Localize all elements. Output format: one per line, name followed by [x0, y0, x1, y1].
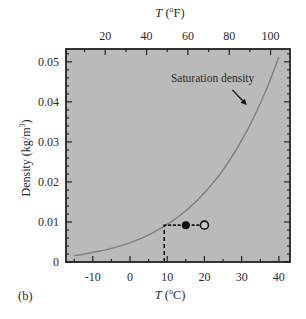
x2-tick-label: 40: [141, 29, 153, 43]
x-axis-tick-labels: -10010203040: [85, 270, 285, 284]
x2-axis-label: T (oF): [155, 5, 184, 20]
y-tick-label: 0.05: [38, 55, 59, 69]
x2-axis-tick-labels: 20406080100: [99, 29, 279, 43]
x2-tick-label: 20: [99, 29, 111, 43]
y-axis-label: Density (kg/m3): [18, 120, 33, 197]
filled-point: [182, 221, 190, 229]
y-tick-label: 0.03: [38, 135, 59, 149]
x-tick-label: 40: [273, 270, 285, 284]
x-tick-label: 10: [161, 270, 173, 284]
y-tick-label: 0.02: [38, 175, 59, 189]
x2-tick-label: 100: [262, 29, 280, 43]
x-tick-label: -10: [85, 270, 101, 284]
open-point: [200, 221, 208, 229]
x-tick-label: 30: [236, 270, 248, 284]
x2-tick-label: 60: [182, 29, 194, 43]
annotation-label: Saturation density: [171, 72, 255, 85]
panel-label: (b): [18, 289, 33, 303]
y-tick-label: 0: [53, 255, 59, 269]
x-axis-label: T (oC): [155, 287, 186, 302]
y-tick-label: 0.01: [38, 215, 59, 229]
x-tick-label: 20: [198, 270, 210, 284]
saturation-density-chart: Saturation density -10010203040 20406080…: [0, 0, 306, 319]
x-tick-label: 0: [127, 270, 133, 284]
x2-tick-label: 80: [223, 29, 235, 43]
y-axis-tick-labels: 00.010.020.030.040.05: [38, 55, 59, 269]
y-tick-label: 0.04: [38, 95, 59, 109]
